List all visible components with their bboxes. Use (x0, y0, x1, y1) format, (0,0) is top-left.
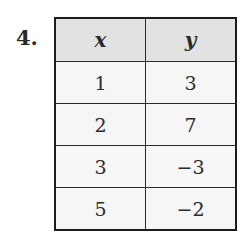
cell-y: 3 (146, 62, 237, 104)
cell-x: 1 (55, 62, 146, 104)
table-row: 1 3 (55, 62, 236, 104)
cell-y: −3 (146, 146, 237, 188)
cell-y: 7 (146, 104, 237, 146)
xy-table: x y 1 3 2 7 3 −3 5 −2 (54, 17, 237, 231)
table-header-row: x y (55, 18, 236, 62)
cell-y: −2 (146, 188, 237, 231)
header-y: y (146, 18, 237, 62)
cell-x: 2 (55, 104, 146, 146)
cell-x: 5 (55, 188, 146, 231)
cell-x: 3 (55, 146, 146, 188)
problem-number: 4. (16, 25, 38, 50)
table-row: 5 −2 (55, 188, 236, 231)
table-row: 2 7 (55, 104, 236, 146)
table-row: 3 −3 (55, 146, 236, 188)
header-x: x (55, 18, 146, 62)
